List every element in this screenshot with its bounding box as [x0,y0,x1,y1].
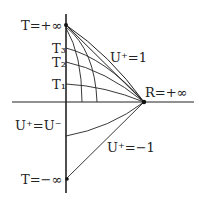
t3-label: T₃ [52,42,66,55]
penrose-diagram: T=+∞ T₃ T₂ T₁ U⁺=1 R=+∞ U⁺=U⁻ U⁺=−1 T=−∞ [0,0,199,204]
t1-label: T₁ [52,78,66,91]
r-plus-inf-label: R=+∞ [145,86,187,99]
u-plus-eq-u-minus-label: U⁺=U⁻ [15,119,62,132]
t-minus-inf-label: T=−∞ [21,173,62,186]
t-plus-inf-label: T=+∞ [21,19,62,32]
u-plus-minus-1-label: U⁺=−1 [107,141,155,154]
t2-label: T₂ [52,56,66,69]
u-plus-1-label: U⁺=1 [110,51,147,64]
u-plus-eq-u-minus-curve [66,102,144,136]
